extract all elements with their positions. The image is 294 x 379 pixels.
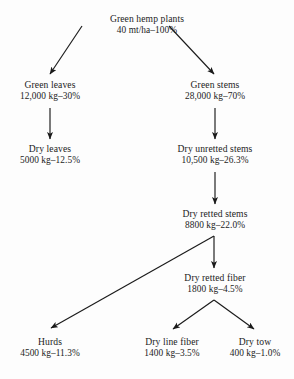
node-label: Green hemp plants	[110, 14, 184, 25]
node-label: Dry tow	[230, 337, 281, 348]
arrow-dry-retted-fiber-to-dry-line-fiber	[173, 300, 214, 329]
node-dry-unretted-stems: Dry unretted stems10,500 kg–26.3%	[178, 144, 253, 165]
node-value: 4500 kg–11.3%	[20, 348, 80, 359]
arrow-layer	[0, 0, 294, 379]
node-value: 12,000 kg–30%	[20, 91, 80, 102]
node-dry-line-fiber: Dry line fiber1400 kg–3.5%	[144, 337, 199, 358]
node-value: 40 mt/ha–100%	[110, 25, 184, 36]
node-dry-retted-stems: Dry retted stems8800 kg–22.0%	[182, 209, 247, 230]
node-hurds: Hurds4500 kg–11.3%	[20, 337, 80, 358]
node-label: Green leaves	[20, 80, 80, 91]
node-dry-leaves: Dry leaves5000 kg–12.5%	[20, 144, 80, 165]
node-label: Dry retted stems	[182, 209, 247, 220]
node-dry-tow: Dry tow400 kg–1.0%	[230, 337, 281, 358]
node-value: 28,000 kg–70%	[185, 91, 245, 102]
hemp-processing-flowchart: Green hemp plants40 mt/ha–100%Green leav…	[0, 0, 294, 379]
node-value: 8800 kg–22.0%	[182, 220, 247, 231]
node-label: Green stems	[185, 80, 245, 91]
node-value: 1400 kg–3.5%	[144, 348, 199, 359]
node-label: Hurds	[20, 337, 80, 348]
node-green-hemp-plants: Green hemp plants40 mt/ha–100%	[110, 14, 184, 35]
node-label: Dry line fiber	[144, 337, 199, 348]
node-dry-retted-fiber: Dry retted fiber1800 kg–4.5%	[184, 273, 245, 294]
node-green-stems: Green stems28,000 kg–70%	[185, 80, 245, 101]
node-value: 10,500 kg–26.3%	[178, 155, 253, 166]
node-label: Dry unretted stems	[178, 144, 253, 155]
node-value: 1800 kg–4.5%	[184, 284, 245, 295]
node-label: Dry retted fiber	[184, 273, 245, 284]
node-value: 5000 kg–12.5%	[20, 155, 80, 166]
node-green-leaves: Green leaves12,000 kg–30%	[20, 80, 80, 101]
node-value: 400 kg–1.0%	[230, 348, 281, 359]
arrow-plants-to-green-leaves	[50, 26, 82, 74]
arrow-dry-retted-fiber-to-dry-tow	[214, 300, 254, 329]
node-label: Dry leaves	[20, 144, 80, 155]
